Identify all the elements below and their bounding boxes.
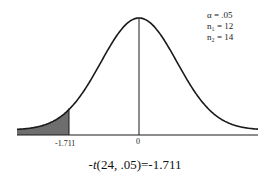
critical-value-caption: -t(24, .05)=-1.711 bbox=[0, 157, 270, 173]
tick-critical-value: -1.711 bbox=[55, 139, 75, 148]
legend-alpha: α = .05 bbox=[207, 10, 233, 21]
tick-zero: 0 bbox=[136, 137, 140, 146]
parameter-legend: α = .05 n₁ = 12 n₂ = 14 bbox=[207, 10, 233, 43]
legend-n1: n₁ = 12 bbox=[207, 21, 233, 32]
caption-rest: (24, .05)=-1.711 bbox=[97, 157, 182, 172]
critical-region-shade bbox=[17, 109, 69, 135]
legend-n2: n₂ = 14 bbox=[207, 32, 233, 43]
